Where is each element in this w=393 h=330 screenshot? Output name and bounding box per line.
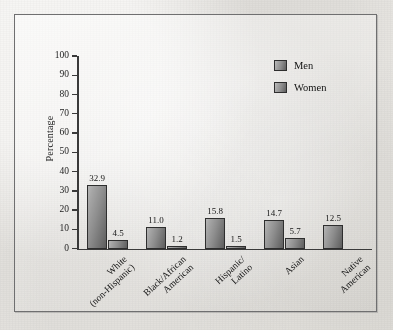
y-tick-label: 60 [41,128,69,137]
y-tick-label: 10 [41,224,69,233]
bar-value-label: 32.9 [81,174,113,183]
bar-men-2 [205,218,225,248]
bar-women-3 [285,238,305,249]
y-tick-label: 90 [41,70,69,79]
bar-women-0 [108,240,128,249]
legend-swatch-women [274,82,287,93]
bar-value-label: 1.2 [161,235,193,244]
bar-men-4 [323,225,343,249]
bar-value-label: 11.0 [140,216,172,225]
y-tick-label: 80 [41,90,69,99]
bar-value-label: 15.8 [199,207,231,216]
legend-label-women: Women [294,82,326,93]
y-tick-label: 100 [41,51,69,60]
plot-area: Percentage 1009080706050403020100 32.94.… [15,15,376,311]
chart-legend: Men Women [274,57,326,101]
bar-value-label: 14.7 [258,209,290,218]
bar-value-label: 12.5 [317,214,349,223]
bar-value-label: 1.5 [220,235,252,244]
bar-value-label: 4.5 [102,229,134,238]
legend-item-women: Women [274,79,326,96]
y-tick-label: 70 [41,109,69,118]
y-tick-label: 50 [41,147,69,156]
bar-men-0 [87,185,107,248]
bar-value-label: 5.7 [279,227,311,236]
y-tick-label: 0 [41,244,69,253]
chart-frame: Percentage 1009080706050403020100 32.94.… [14,14,377,312]
legend-swatch-men [274,60,287,71]
y-tick-label: 20 [41,205,69,214]
bar-women-2 [226,246,246,249]
y-tick-label: 40 [41,167,69,176]
bar-women-1 [167,246,187,248]
bars-layer: 32.94.511.01.215.81.514.75.712.5 [77,56,372,249]
legend-label-men: Men [294,60,313,71]
legend-item-men: Men [274,57,326,74]
y-tick-label: 30 [41,186,69,195]
x-axis-line [77,249,372,251]
